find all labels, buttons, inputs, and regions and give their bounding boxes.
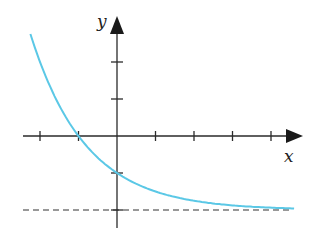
y-axis-label: y: [96, 11, 107, 31]
y-axis-arrow-icon: [110, 16, 124, 34]
x-axis-label: x: [284, 146, 294, 166]
x-axis-arrow-icon: [286, 129, 303, 143]
curve: [30, 34, 294, 209]
exponential-graph: y x: [0, 0, 327, 228]
